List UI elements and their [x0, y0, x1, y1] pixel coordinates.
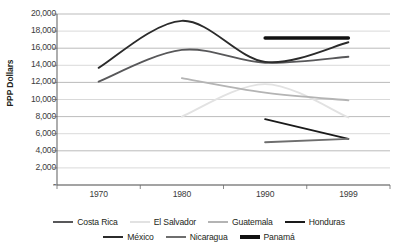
legend-label: Guatemala [232, 217, 273, 227]
plot-area [0, 0, 398, 250]
legend-label: Honduras [309, 217, 345, 227]
legend-row-1: Costa RicaEl SalvadorGuatemalaHonduras [0, 214, 398, 229]
legend-swatch-line-icon [240, 235, 260, 239]
legend-label: Panamá [264, 232, 295, 242]
legend-label: El Salvador [154, 217, 196, 227]
legend-item-guatemala[interactable]: Guatemala [208, 217, 273, 227]
ppp-dollars-line-chart: PPP Dollars -2,0004,0006,0008,00010,0001… [0, 0, 398, 250]
legend-item-panamá[interactable]: Panamá [240, 232, 295, 242]
legend-item-nicaragua[interactable]: Nicaragua [166, 232, 228, 242]
legend-swatch-line-icon [166, 236, 186, 238]
series-line-honduras [265, 119, 348, 139]
legend-label: México [127, 232, 153, 242]
x-tick-label: 1980 [157, 189, 207, 199]
legend-swatch-line-icon [130, 221, 150, 223]
x-axis-tick-labels: 1970198019901999 [0, 189, 398, 203]
legend-swatch-line-icon [53, 221, 73, 223]
legend-swatch-line-icon [103, 236, 123, 238]
legend-item-costa-rica[interactable]: Costa Rica [53, 217, 118, 227]
series-line-nicaragua [265, 139, 348, 142]
legend-swatch-line-icon [285, 221, 305, 223]
legend-item-honduras[interactable]: Honduras [285, 217, 345, 227]
legend-item-méxico[interactable]: México [103, 232, 153, 242]
legend-label: Nicaragua [190, 232, 228, 242]
series-line-el-salvador [182, 84, 349, 117]
legend-item-el-salvador[interactable]: El Salvador [130, 217, 196, 227]
x-tick-label: 1970 [74, 189, 124, 199]
x-tick-label: 1990 [240, 189, 290, 199]
series-line-guatemala [182, 78, 349, 100]
legend-label: Costa Rica [77, 217, 118, 227]
x-tick-label: 1999 [323, 189, 373, 199]
legend-swatch-line-icon [208, 221, 228, 223]
legend-row-2: MéxicoNicaraguaPanamá [0, 229, 398, 244]
chart-legend: Costa RicaEl SalvadorGuatemalaHonduras M… [0, 214, 398, 248]
